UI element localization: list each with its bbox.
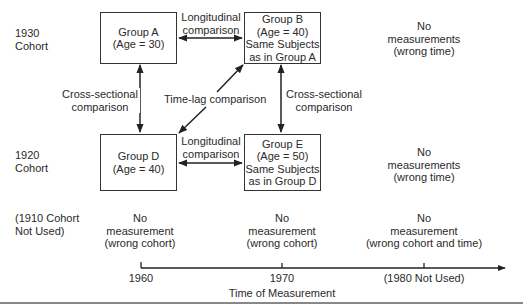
box-title: Group A	[118, 26, 158, 39]
no-measurement-1910-1970: No measurement (wrong cohort)	[232, 212, 332, 250]
axis-tick-label-1970: 1970	[252, 272, 312, 285]
box-age: (Age = 40)	[257, 26, 309, 39]
axis-tick-label-1980: (1980 Not Used)	[374, 272, 474, 285]
box-title: Group B	[262, 13, 303, 26]
bottom-rule	[0, 302, 523, 304]
label-line: Longitudinal	[178, 11, 244, 24]
group-a-box: Group A (Age = 30)	[100, 12, 177, 64]
label-line: Cross-sectional	[60, 88, 140, 101]
box-note: Same Subjects	[246, 163, 320, 176]
label-line: (wrong cohort)	[232, 237, 332, 250]
box-title: Group D	[118, 150, 160, 163]
label-line: No	[232, 212, 332, 225]
label-line: measurement	[354, 225, 494, 238]
label-line: comparison	[60, 101, 140, 114]
time-lag-arrow-lower	[179, 107, 206, 133]
label-line: measurement	[90, 225, 190, 238]
group-e-box: Group E (Age = 50) Same Subjects as in G…	[244, 134, 321, 191]
box-note: Same Subjects	[246, 38, 320, 51]
label-line: (wrong cohort)	[90, 237, 190, 250]
no-measurement-1910-1960: No measurement (wrong cohort)	[90, 212, 190, 250]
label-line: comparison	[178, 148, 244, 161]
no-measurement-1920-1980: No measurements (wrong time)	[370, 146, 478, 184]
label-line: No	[370, 20, 478, 33]
axis-title: Time of Measurement	[222, 287, 342, 300]
box-note: as in Group A	[249, 51, 316, 64]
axis-tick-label-1960: 1960	[111, 272, 171, 285]
label-line: No	[90, 212, 190, 225]
label-line: (wrong time)	[370, 171, 478, 184]
box-note: as in Group D	[249, 175, 317, 188]
no-measurement-1910-1980: No measurement (wrong cohort and time)	[354, 212, 494, 250]
label-line: No	[354, 212, 494, 225]
time-lag-label: Time-lag comparison	[163, 93, 267, 106]
group-b-box: Group B (Age = 40) Same Subjects as in G…	[244, 12, 321, 64]
label-line: comparison	[285, 101, 363, 114]
label-line: measurements	[370, 159, 478, 172]
label-line: No	[370, 146, 478, 159]
cross-sectional-label-left: Cross-sectional comparison	[60, 88, 140, 113]
label-line: measurement	[232, 225, 332, 238]
label-line: (wrong cohort and time)	[354, 237, 494, 250]
box-age: (Age = 30)	[113, 38, 165, 51]
no-measurement-1930-1980: No measurements (wrong time)	[370, 20, 478, 58]
longitudinal-label-bottom: Longitudinal comparison	[178, 135, 244, 160]
label-line: Longitudinal	[178, 135, 244, 148]
label-line: comparison	[178, 24, 244, 37]
label-line: (wrong time)	[370, 45, 478, 58]
longitudinal-label-top: Longitudinal comparison	[178, 11, 244, 36]
box-age: (Age = 50)	[257, 150, 309, 163]
group-d-box: Group D (Age = 40)	[100, 134, 177, 191]
box-age: (Age = 40)	[113, 163, 165, 176]
box-title: Group E	[262, 138, 303, 151]
label-line: measurements	[370, 33, 478, 46]
time-lag-arrow-upper	[217, 65, 243, 92]
label-line: Cross-sectional	[285, 88, 363, 101]
cross-sectional-label-right: Cross-sectional comparison	[285, 88, 363, 113]
